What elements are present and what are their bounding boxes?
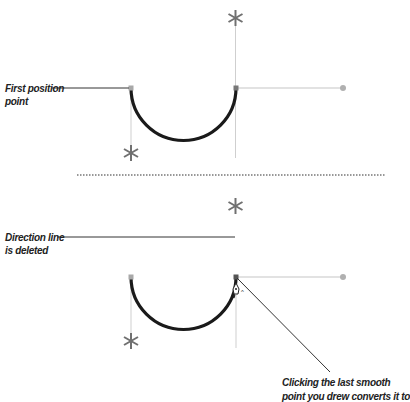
direction-point xyxy=(340,85,346,91)
asterisk-icon xyxy=(229,198,243,214)
asterisk-icon xyxy=(124,145,138,161)
asterisk-icon xyxy=(124,333,138,349)
curve-path xyxy=(131,88,236,141)
convert-anchor-cursor-icon: ^ xyxy=(233,283,244,298)
anchor-point xyxy=(129,86,134,91)
leader-line xyxy=(237,278,330,372)
anchor-point xyxy=(129,275,134,280)
svg-text:^: ^ xyxy=(241,289,244,295)
label-line: is deleted xyxy=(5,244,64,257)
label-line: Direction line xyxy=(5,231,64,244)
asterisk-icon xyxy=(229,10,243,26)
caption-label: Clicking the last smooth point you drew … xyxy=(282,376,410,402)
label-line: point xyxy=(5,95,64,108)
caption-line: point you drew converts it to xyxy=(282,390,410,402)
anchor-point xyxy=(234,86,239,91)
direction-line-deleted-label: Direction line is deleted xyxy=(5,231,64,257)
label-line: First position xyxy=(5,82,64,95)
direction-point xyxy=(340,274,346,280)
first-position-label: First position point xyxy=(5,82,64,108)
curve-path xyxy=(131,277,236,330)
caption-line: Clicking the last smooth xyxy=(282,376,410,390)
